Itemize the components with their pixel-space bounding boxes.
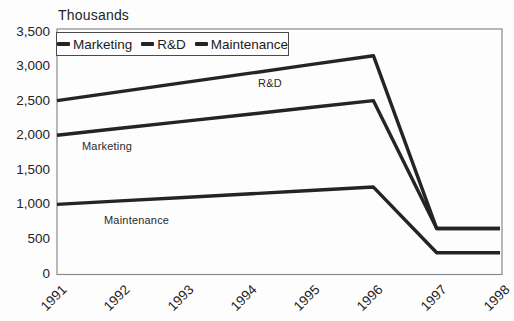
legend-item-marketing: Marketing xyxy=(57,37,132,52)
y-axis-tick-label: 1,500 xyxy=(0,162,50,178)
line-swatch-icon xyxy=(57,42,70,46)
legend-label: Marketing xyxy=(73,37,132,52)
series-label-rnd: R&D xyxy=(258,77,282,89)
y-axis-tick-label: 500 xyxy=(0,231,50,247)
chart-units-title: Thousands xyxy=(58,7,129,23)
legend: Marketing R&D Maintenance xyxy=(56,32,289,56)
series-label-maintenance: Maintenance xyxy=(104,214,169,226)
line-swatch-icon xyxy=(195,42,208,46)
y-axis-tick-label: 3,500 xyxy=(0,24,50,40)
y-axis-tick-label: 2,500 xyxy=(0,93,50,109)
series-line-marketing xyxy=(57,101,500,229)
legend-item-maintenance: Maintenance xyxy=(195,37,288,52)
y-axis-tick-label: 0 xyxy=(0,266,50,282)
series-label-marketing: Marketing xyxy=(82,140,132,152)
line-swatch-icon xyxy=(141,42,154,46)
legend-label: R&D xyxy=(157,37,186,52)
legend-item-rnd: R&D xyxy=(141,37,186,52)
legend-label: Maintenance xyxy=(211,37,288,52)
y-axis-tick-label: 3,000 xyxy=(0,58,50,74)
line-chart: Thousands Marketing R&D Maintenance Mark… xyxy=(0,0,514,321)
y-axis-tick-label: 2,000 xyxy=(0,127,50,143)
y-axis-tick-label: 1,000 xyxy=(0,196,50,212)
